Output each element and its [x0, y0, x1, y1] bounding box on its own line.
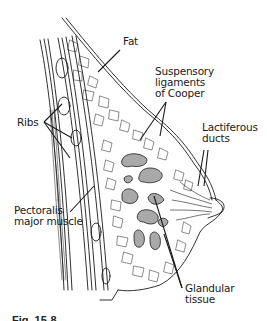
- breast-anatomy-diagram: [0, 0, 267, 321]
- label-ribs: Ribs: [17, 117, 39, 128]
- label-pectoralis-line2: major muscle: [14, 216, 83, 227]
- label-lactiferous-ducts-line2: ducts: [202, 133, 230, 144]
- glandular-lobules: [122, 154, 168, 250]
- figure-caption: Fig. 15-8: [12, 314, 57, 321]
- lactiferous-ducts: [170, 182, 212, 220]
- label-suspensory-ligaments-line3: of Cooper: [155, 88, 204, 99]
- label-fat: Fat: [123, 36, 138, 47]
- label-glandular-tissue-line2: tissue: [185, 294, 215, 305]
